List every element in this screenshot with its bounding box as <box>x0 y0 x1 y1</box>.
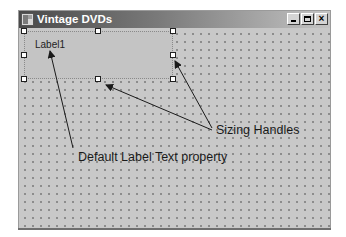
sizing-handles-callout: Sizing Handles <box>216 123 299 137</box>
label-control[interactable]: Label1 <box>24 31 173 79</box>
sizing-handle-top-middle[interactable] <box>95 28 101 34</box>
maximize-button[interactable] <box>301 13 314 25</box>
sizing-handle-top-right[interactable] <box>170 28 176 34</box>
sizing-handle-bottom-middle[interactable] <box>95 76 101 82</box>
sizing-handle-top-left[interactable] <box>21 28 27 34</box>
form-window: Vintage DVDs × Label1 <box>18 10 331 229</box>
sizing-handle-middle-left[interactable] <box>21 52 27 58</box>
close-icon: × <box>319 13 325 24</box>
sizing-handle-middle-right[interactable] <box>170 52 176 58</box>
minimize-button[interactable] <box>287 13 300 25</box>
close-button[interactable]: × <box>315 13 328 25</box>
sizing-handle-bottom-right[interactable] <box>170 76 176 82</box>
form-icon[interactable] <box>21 13 34 26</box>
default-label-text-callout: Default Label Text property <box>78 150 227 164</box>
window-title: Vintage DVDs <box>37 12 112 27</box>
title-bar[interactable]: Vintage DVDs × <box>19 11 330 28</box>
sizing-handle-bottom-left[interactable] <box>21 76 27 82</box>
label-text: Label1 <box>35 39 65 50</box>
maximize-icon <box>304 16 311 22</box>
minimize-icon <box>291 20 296 22</box>
